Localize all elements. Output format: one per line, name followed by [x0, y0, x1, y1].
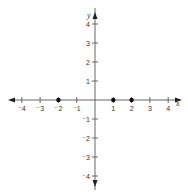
- x-tick-label: 4: [166, 105, 170, 112]
- x-tick-label: 3: [148, 105, 152, 112]
- y-tick-label: ⁻3: [82, 154, 90, 161]
- y-axis-label: y: [86, 11, 91, 20]
- axes: [8, 8, 182, 190]
- y-tick-label: ⁻1: [82, 116, 90, 123]
- x-tick-label: ⁻3: [36, 105, 44, 112]
- x-tick-label: ⁻1: [73, 105, 81, 112]
- y-axis-down-arrow-icon: [93, 180, 98, 187]
- data-point: [56, 98, 60, 102]
- x-tick-label: 1: [111, 105, 115, 112]
- y-tick-label: ⁻2: [82, 135, 90, 142]
- x-tick-label: ⁻2: [54, 105, 62, 112]
- x-axis-label: x: [175, 99, 180, 108]
- y-axis-up-arrow-icon: [93, 12, 98, 19]
- coordinate-plane: ⁻4⁻3⁻2⁻112344321⁻1⁻2⁻3⁻4 x y: [0, 0, 188, 196]
- y-tick-label: ⁻4: [82, 173, 90, 180]
- y-tick-label: 2: [86, 59, 90, 66]
- y-tick-label: 3: [86, 40, 90, 47]
- data-point: [111, 98, 115, 102]
- y-tick-label: 4: [86, 21, 90, 28]
- x-tick-label: 2: [130, 105, 134, 112]
- x-axis-left-arrow-icon: [8, 98, 15, 103]
- x-tick-label: ⁻4: [18, 105, 26, 112]
- data-point: [129, 98, 133, 102]
- y-tick-label: 1: [86, 78, 90, 85]
